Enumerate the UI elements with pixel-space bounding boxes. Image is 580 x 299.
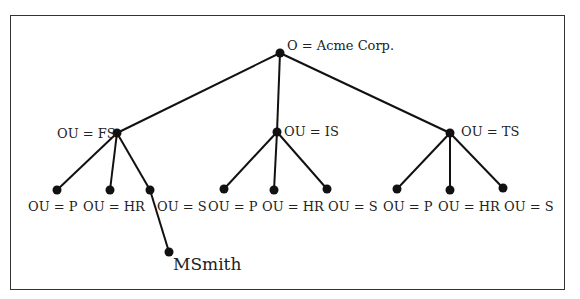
node-ts-hr	[446, 186, 455, 195]
directory-tree-diagram: O = Acme Corp. OU = FS OU = IS OU = TS O…	[0, 0, 580, 299]
node-is	[273, 128, 282, 137]
node-fs-s	[146, 186, 155, 195]
node-ts	[446, 129, 455, 138]
node-root	[276, 49, 285, 58]
ou-ts-label: OU = TS	[461, 125, 519, 138]
node-fs-p	[53, 186, 62, 195]
fs-hr-label: OU = HR	[83, 200, 145, 213]
node-ts-s	[499, 184, 508, 193]
ts-s-label: OU = S	[504, 200, 554, 213]
node-ts-p	[393, 185, 402, 194]
ts-p-label: OU = P	[383, 200, 433, 213]
ts-hr-label: OU = HR	[438, 200, 500, 213]
node-is-p	[220, 185, 229, 194]
is-s-label: OU = S	[328, 200, 378, 213]
ou-is-label: OU = IS	[284, 125, 339, 138]
msmith-label: MSmith	[173, 256, 241, 273]
root-label: O = Acme Corp.	[287, 39, 394, 52]
node-is-hr	[270, 186, 279, 195]
ou-fs-label: OU = FS	[57, 127, 116, 140]
fs-p-label: OU = P	[28, 200, 78, 213]
fs-s-label: OU = S	[157, 200, 207, 213]
is-hr-label: OU = HR	[262, 200, 324, 213]
node-is-s	[323, 185, 332, 194]
node-fs-hr	[106, 186, 115, 195]
is-p-label: OU = P	[208, 200, 258, 213]
